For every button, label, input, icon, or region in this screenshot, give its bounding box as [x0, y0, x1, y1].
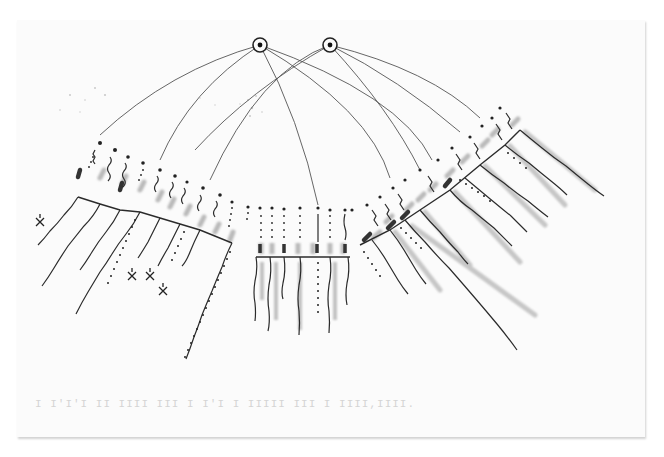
connection-line: [260, 45, 390, 178]
x-mark-icon: [36, 214, 44, 226]
left-fan-cluster: [36, 141, 250, 359]
source-node-icon: [253, 38, 267, 52]
right-fan-cluster: [350, 106, 604, 350]
diagram-canvas: [0, 0, 664, 457]
connection-line: [330, 45, 420, 170]
connection-line: [330, 45, 480, 118]
x-mark-icon: [159, 283, 167, 295]
x-mark-icon: [146, 268, 154, 280]
connection-line: [100, 45, 260, 135]
connection-lines: [100, 45, 480, 205]
source-nodes: [253, 38, 337, 52]
connection-line: [260, 45, 318, 205]
center-comb-cluster: [254, 206, 350, 335]
source-node-icon: [323, 38, 337, 52]
smudge-marks: [59, 87, 263, 117]
x-mark-icon: [128, 268, 136, 280]
